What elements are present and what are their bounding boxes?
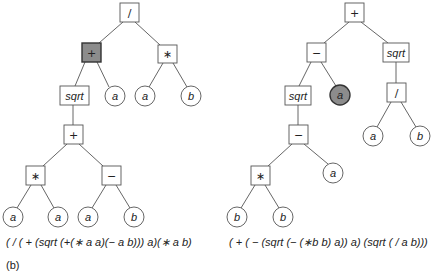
node-label: a [142, 90, 148, 102]
node-label: ∗ [31, 170, 40, 183]
right-minus-node-low: − [289, 125, 308, 144]
right-leaf-b3: b [273, 207, 293, 227]
node-label: b [234, 211, 240, 223]
expression-trees-diagram: / + ∗ sqrt a a b + [0, 0, 431, 272]
right-sqrt-node-left: sqrt [285, 86, 311, 105]
node-label: − [107, 170, 116, 183]
right-leaf-b1: b [410, 126, 430, 146]
left-sqrt-node: sqrt [60, 86, 89, 105]
node-label: a [337, 89, 343, 101]
right-multiply-node: ∗ [251, 166, 270, 185]
node-label: b [188, 90, 194, 102]
node-label: ∗ [256, 170, 265, 183]
left-minus-node: − [102, 166, 121, 185]
right-leaf-a1: a [363, 126, 383, 146]
node-label: a [330, 167, 336, 179]
left-leaf-b1: b [181, 86, 201, 106]
node-label: / [395, 87, 399, 100]
left-tree-expression: ( / ( + (sqrt (+(∗ a a)(− a b))) a)(∗ a … [6, 236, 192, 249]
node-label: ∗ [163, 48, 172, 61]
node-label: − [294, 129, 303, 142]
right-minus-node-top: − [307, 43, 326, 62]
node-label: a [85, 211, 91, 223]
node-label: a [112, 90, 118, 102]
node-label: + [350, 7, 359, 20]
right-leaf-b2: b [227, 207, 247, 227]
node-label: sqrt [65, 90, 84, 102]
right-highlighted-leaf-a: a [330, 85, 350, 105]
left-tree: / + ∗ sqrt a a b + [3, 3, 201, 227]
right-sqrt-node-right: sqrt [383, 43, 409, 62]
node-label: a [10, 211, 16, 223]
node-label: − [312, 47, 321, 60]
node-label: sqrt [387, 47, 406, 59]
right-tree: + − sqrt sqrt a / a b [227, 3, 430, 227]
left-root-divide-node: / [120, 3, 139, 22]
node-label: sqrt [289, 90, 308, 102]
node-label: b [417, 130, 423, 142]
node-label: a [55, 211, 61, 223]
left-multiply-node-low: ∗ [26, 166, 45, 185]
left-leaf-a2: a [135, 86, 155, 106]
left-plus-node-low: + [64, 125, 83, 144]
right-divide-node: / [387, 83, 406, 102]
left-highlighted-plus-node: + [82, 43, 101, 62]
node-label: + [87, 47, 96, 60]
left-leaf-a4: a [48, 207, 68, 227]
figure-label: (b) [6, 259, 19, 271]
node-label: + [69, 129, 78, 142]
left-leaf-a3: a [3, 207, 23, 227]
node-label: a [370, 130, 376, 142]
left-leaf-a1: a [105, 86, 125, 106]
left-leaf-b2: b [124, 207, 144, 227]
right-root-plus-node: + [345, 3, 364, 22]
right-leaf-a2: a [323, 163, 343, 183]
node-label: / [128, 7, 132, 20]
right-tree-expression: ( + ( − (sqrt (− (∗b b) a)) a) (sqrt ( /… [229, 236, 428, 249]
left-leaf-a5: a [78, 207, 98, 227]
left-multiply-node-top: ∗ [158, 45, 177, 63]
node-label: b [280, 211, 286, 223]
node-label: b [131, 211, 137, 223]
